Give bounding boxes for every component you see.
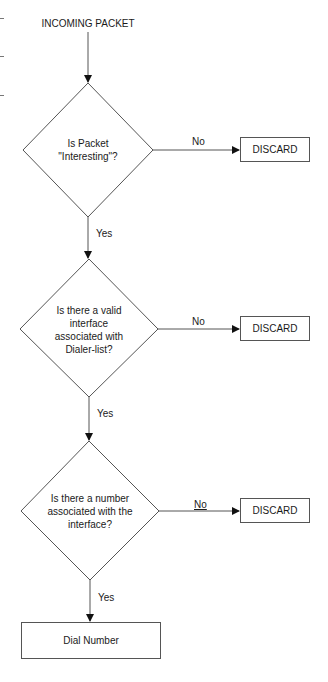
dial-number-box: Dial Number	[21, 622, 161, 659]
discard-box-2: DISCARD	[240, 316, 310, 341]
decision-1-text: Is Packet "Interesting"?	[38, 137, 138, 163]
d1-no-label: No	[192, 136, 205, 148]
decision-3-line: Is there a number	[30, 492, 150, 505]
decision-2-line: Dialer-list?	[34, 343, 144, 356]
discard-box-2-label: DISCARD	[252, 323, 297, 334]
d1-yes-label: Yes	[96, 228, 112, 240]
d3-yes-label: Yes	[98, 592, 114, 604]
decision-3-text: Is there a number associated with the in…	[30, 492, 150, 531]
decision-2-line: interface	[34, 317, 144, 330]
decision-2-line: Is there a valid	[34, 304, 144, 317]
discard-box-1-label: DISCARD	[252, 144, 297, 155]
start-label: INCOMING PACKET	[28, 18, 148, 30]
d3-no-label: No	[194, 499, 207, 511]
d2-yes-label: Yes	[97, 408, 113, 420]
decision-2-line: associated with	[34, 330, 144, 343]
decision-3-line: associated with the	[30, 505, 150, 518]
dial-number-label: Dial Number	[63, 635, 119, 646]
discard-box-3: DISCARD	[240, 498, 310, 523]
decision-3-line: interface?	[30, 518, 150, 531]
d2-no-label: No	[192, 316, 205, 328]
discard-box-1: DISCARD	[240, 137, 310, 162]
decision-2-text: Is there a valid interface associated wi…	[34, 304, 144, 356]
discard-box-3-label: DISCARD	[252, 505, 297, 516]
decision-1-line: Is Packet	[38, 137, 138, 150]
decision-1-line: "Interesting"?	[38, 150, 138, 163]
